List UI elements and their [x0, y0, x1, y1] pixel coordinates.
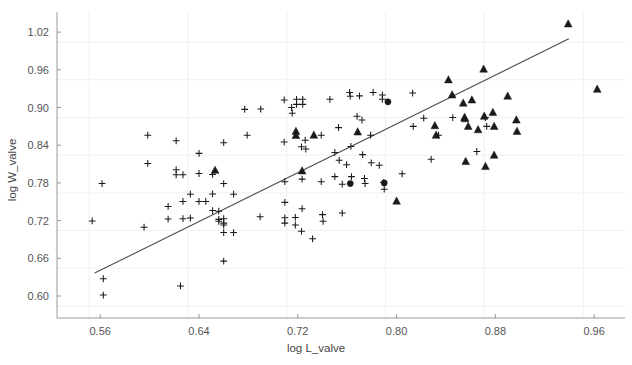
x-tick-label: 0.80: [386, 325, 407, 337]
x-tick-label: 0.72: [287, 325, 308, 337]
y-tick-label: 0.84: [28, 139, 49, 151]
x-tick-label: 0.88: [485, 325, 506, 337]
y-tick-label: 0.96: [28, 64, 49, 76]
x-axis-label: log L_valve: [287, 342, 345, 354]
marker-circle: [381, 180, 387, 186]
marker-circle: [347, 180, 353, 186]
y-tick-label: 0.60: [28, 290, 49, 302]
x-tick-label: 0.56: [90, 325, 111, 337]
marker-circle: [385, 99, 391, 105]
chart-canvas: 0.600.660.720.780.840.900.961.020.560.64…: [0, 0, 632, 365]
y-tick-label: 0.90: [28, 102, 49, 114]
y-tick-label: 0.66: [28, 252, 49, 264]
x-tick-label: 0.64: [188, 325, 209, 337]
y-tick-label: 1.02: [28, 26, 49, 38]
y-axis-label: log W_valve: [6, 139, 18, 202]
y-tick-label: 0.72: [28, 215, 49, 227]
x-tick-label: 0.96: [583, 325, 604, 337]
scatter-plot-figure: 0.600.660.720.780.840.900.961.020.560.64…: [0, 0, 632, 365]
y-tick-label: 0.78: [28, 177, 49, 189]
